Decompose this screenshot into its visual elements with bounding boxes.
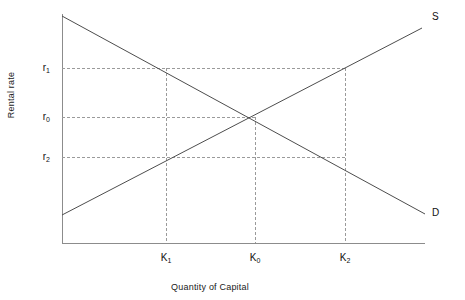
demand-curve-label: D bbox=[432, 207, 439, 218]
x-tick-label-K2: K2 bbox=[330, 252, 360, 263]
y-tick-label-r2: r2 bbox=[26, 151, 50, 162]
plot-area bbox=[0, 0, 465, 300]
x-axis-title: Quantity of Capital bbox=[0, 282, 420, 292]
x-tick-label-K0: K0 bbox=[240, 252, 270, 263]
supply-curve-label: S bbox=[432, 11, 439, 22]
x-tick-sub-K1: 1 bbox=[167, 257, 171, 264]
demand-curve bbox=[62, 16, 425, 214]
y-tick-sub-r1: 1 bbox=[46, 67, 50, 74]
y-tick-label-r1: r1 bbox=[26, 62, 50, 73]
y-tick-sub-r2: 2 bbox=[46, 156, 50, 163]
supply-curve bbox=[62, 28, 422, 215]
x-tick-sub-K2: 2 bbox=[346, 257, 350, 264]
y-axis-title: Rental rate bbox=[6, 65, 16, 125]
x-tick-label-K1: K1 bbox=[151, 252, 181, 263]
x-tick-sub-K0: 0 bbox=[256, 257, 260, 264]
y-tick-label-r0: r0 bbox=[26, 111, 50, 122]
capital-market-chart: Rental rate Quantity of Capital r1 r0 r2… bbox=[0, 0, 465, 300]
y-tick-sub-r0: 0 bbox=[46, 116, 50, 123]
